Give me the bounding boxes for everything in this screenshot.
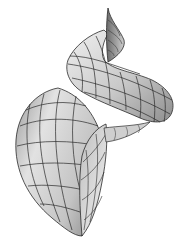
seashell-illustration [0, 0, 188, 244]
inner-tube-tail [104, 122, 150, 142]
spire-tip [107, 8, 125, 62]
seashell-figure [0, 0, 188, 244]
